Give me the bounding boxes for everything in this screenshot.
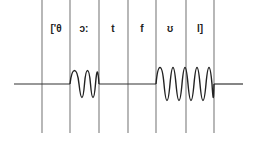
segment-label-th: ['θ [42, 23, 70, 35]
segment-boundaries [42, 0, 214, 133]
segment-label-aw: ɔ: [70, 23, 98, 35]
segment-label-l: l] [186, 23, 214, 35]
voicing-wave-ul [156, 68, 214, 101]
waveform-canvas [0, 0, 254, 143]
segment-label-u: ʊ [156, 23, 184, 35]
segment-label-t: t [99, 23, 127, 35]
phonetic-voicing-diagram: ['θ ɔ: t f ʊ l] [0, 0, 254, 143]
segment-label-f: f [128, 23, 156, 35]
voicing-wave-vowel [70, 71, 99, 98]
